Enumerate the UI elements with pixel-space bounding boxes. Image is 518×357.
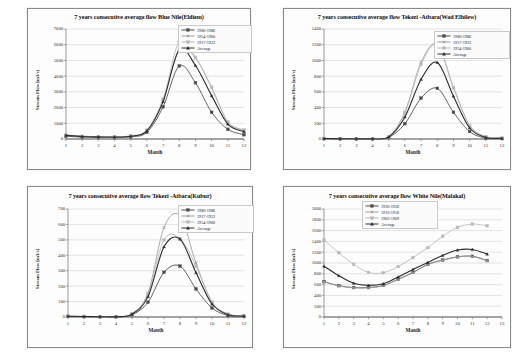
y-tick-label: 1000	[312, 58, 321, 63]
legend-item[interactable]: Average	[437, 51, 507, 57]
y-tick-label: 1000	[312, 260, 321, 265]
legend-label: 1980-1986	[453, 34, 471, 39]
y-tick-label: 200	[314, 304, 321, 309]
x-axis-label: Month	[136, 327, 176, 333]
x-tick-label: 6	[392, 321, 404, 326]
x-tick-label: 5	[126, 321, 138, 326]
legend-label: 1954-1960	[197, 34, 215, 39]
x-tick-label: 8	[422, 321, 434, 326]
legend-label: 1920-1926	[381, 204, 399, 209]
x-tick-label: 6	[399, 143, 411, 148]
x-tick-label: 1	[318, 321, 330, 326]
x-tick-label: 12	[481, 321, 493, 326]
legend-label: 1980-1986	[197, 208, 215, 213]
y-tick-label: 300	[58, 268, 65, 273]
x-tick-label: 2	[333, 321, 345, 326]
chart-panel-blue-nile-eldiem: 7 years consecutive average flow Blue Ni…	[27, 8, 251, 170]
y-tick-label: 2000	[54, 105, 63, 110]
y-tick-label: 800	[314, 74, 321, 79]
legend-label: Average	[197, 226, 211, 231]
x-tick-label: 10	[452, 321, 464, 326]
y-tick-label: 1800	[312, 217, 321, 222]
y-tick-label: 600	[58, 222, 65, 227]
x-tick-label: 7	[157, 143, 169, 148]
x-tick-label: 5	[377, 321, 389, 326]
y-tick-label: 1600	[312, 228, 321, 233]
y-axis-label: Stream Flow [m3/s]	[35, 249, 40, 289]
x-tick-label: 11	[222, 321, 234, 326]
y-tick-label: 400	[314, 105, 321, 110]
chart-panel-tekezi-atbara-kubur: 7 years consecutive average flow Tekezi …	[27, 186, 253, 348]
x-tick-label: 5	[125, 143, 137, 148]
y-tick-label: 600	[314, 89, 321, 94]
legend-item[interactable]: Average	[365, 221, 435, 227]
x-tick-label: 12	[238, 143, 250, 148]
legend-swatch-icon	[181, 45, 195, 51]
x-tick-label: 8	[174, 321, 186, 326]
x-tick-label: 1	[318, 143, 330, 148]
x-tick-label: 1	[62, 321, 74, 326]
chart-panel-white-nile-malakal: 7 years consecutive average flow White N…	[283, 186, 511, 348]
legend-label: 1917-1923	[453, 40, 471, 45]
x-axis-label: Month	[135, 149, 175, 155]
x-tick-label: 10	[206, 321, 218, 326]
x-tick-label: 7	[158, 321, 170, 326]
chart-legend-tekezi-atbara-kubur: 1980-19861917-19231954-1960Average	[178, 205, 254, 233]
x-tick-label: 9	[447, 143, 459, 148]
y-tick-label: 4000	[54, 74, 63, 79]
y-tick-label: 0	[319, 314, 321, 319]
legend-label: 1963-1969	[381, 216, 399, 221]
y-tick-label: 1200	[312, 42, 321, 47]
y-tick-label: 0	[319, 136, 321, 141]
legend-item[interactable]: Average	[181, 225, 251, 231]
x-tick-label: 9	[437, 321, 449, 326]
x-tick-label: 3	[350, 143, 362, 148]
y-tick-label: 700	[58, 206, 65, 211]
legend-label: Average	[197, 46, 211, 51]
chart-panel-tekezi-atbara-wad-elhilew: 7 years consecutive average flow Tekezi …	[283, 8, 511, 170]
y-tick-label: 1400	[312, 239, 321, 244]
y-tick-label: 7000	[54, 26, 63, 31]
y-axis-label: Stream Flow [m3/s]	[291, 249, 296, 289]
legend-label: 1910-1916	[381, 210, 399, 215]
x-tick-label: 3	[348, 321, 360, 326]
x-tick-label: 4	[109, 143, 121, 148]
y-tick-label: 0	[61, 136, 63, 141]
x-tick-label: 8	[173, 143, 185, 148]
x-tick-label: 4	[363, 321, 375, 326]
y-tick-label: 2000	[312, 206, 321, 211]
y-tick-label: 3000	[54, 89, 63, 94]
y-tick-label: 400	[314, 293, 321, 298]
x-tick-label: 11	[480, 143, 492, 148]
y-tick-label: 200	[58, 284, 65, 289]
x-tick-label: 13	[496, 321, 508, 326]
legend-swatch-icon	[181, 225, 195, 231]
x-tick-label: 1	[60, 143, 72, 148]
x-tick-label: 2	[76, 143, 88, 148]
legend-swatch-icon	[365, 221, 379, 227]
x-tick-label: 9	[189, 143, 201, 148]
y-tick-label: 0	[63, 314, 65, 319]
legend-label: 1980-1986	[197, 28, 215, 33]
y-axis-label: Stream Flow [m3/s]	[291, 70, 296, 110]
y-tick-label: 400	[58, 253, 65, 258]
x-tick-label: 9	[190, 321, 202, 326]
x-tick-label: 10	[464, 143, 476, 148]
y-tick-label: 200	[314, 121, 321, 126]
y-tick-label: 1200	[312, 250, 321, 255]
x-tick-label: 3	[94, 321, 106, 326]
chart-legend-blue-nile-eldiem: 1980-19861954-19601917-1923Average	[178, 25, 252, 53]
y-tick-label: 1000	[54, 121, 63, 126]
x-tick-label: 8	[431, 143, 443, 148]
legend-label: 1917-1923	[197, 40, 215, 45]
y-tick-label: 5000	[54, 58, 63, 63]
x-axis-label: Month	[393, 327, 433, 333]
legend-swatch-icon	[437, 51, 451, 57]
x-tick-label: 2	[78, 321, 90, 326]
legend-item[interactable]: Average	[181, 45, 249, 51]
y-tick-label: 500	[58, 237, 65, 242]
y-axis-label: Stream Flow [m3/s]	[35, 70, 40, 110]
x-tick-label: 7	[415, 143, 427, 148]
x-tick-label: 6	[142, 321, 154, 326]
x-tick-label: 10	[206, 143, 218, 148]
